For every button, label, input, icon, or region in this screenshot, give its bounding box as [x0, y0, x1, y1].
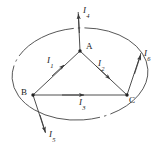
arrow-I4 — [78, 14, 79, 33]
figure-container: A B C I1 I2 I3 I4 I5 I6 — [0, 0, 163, 150]
current-label-i6: I6 — [144, 49, 150, 58]
current-label-i3: I3 — [79, 98, 85, 107]
arrow-I5 — [40, 115, 45, 132]
current-label-i1: I1 — [47, 56, 53, 65]
junction-A — [78, 49, 81, 52]
external-branches — [33, 12, 141, 133]
current-label-i4: I4 — [83, 6, 89, 15]
junction-dots — [31, 49, 128, 96]
current-label-i6-sub: 6 — [147, 55, 150, 62]
current-label-i5: I5 — [49, 130, 55, 139]
arrow-I6 — [135, 55, 141, 74]
gaussian-loop — [9, 23, 151, 124]
junction-B — [31, 93, 34, 96]
vertex-label-b: B — [21, 88, 27, 97]
edge-BA — [33, 51, 80, 95]
current-label-i5-sub: 5 — [52, 136, 55, 143]
current-label-i4-sub: 4 — [86, 12, 89, 19]
current-label-i2-sub: 2 — [101, 65, 104, 72]
vertex-label-c: C — [129, 96, 135, 105]
vertex-label-a: A — [86, 42, 93, 51]
current-label-i2: I2 — [98, 59, 104, 68]
diagram-canvas — [0, 0, 163, 150]
current-label-i3-sub: 3 — [82, 104, 85, 111]
current-label-i1-sub: 1 — [50, 62, 53, 69]
